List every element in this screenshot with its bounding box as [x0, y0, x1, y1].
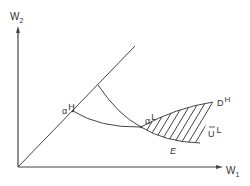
y-axis-label: W2 — [10, 11, 23, 24]
point-alpha-L — [140, 126, 142, 128]
label-D-H: DH — [217, 95, 231, 108]
x-axis-arrow-icon — [216, 165, 223, 169]
curve-E — [141, 127, 200, 143]
y-axis-arrow-icon — [16, 26, 20, 33]
diagram-canvas: W2 W1 αH αL DH UL E — [0, 0, 250, 186]
x-axis-label: W1 — [226, 165, 239, 178]
curve-alpha-H-to-alpha-L — [73, 111, 141, 127]
label-alpha-H: αH — [62, 102, 75, 116]
label-E: E — [170, 146, 177, 156]
diagonal-line — [18, 46, 135, 167]
